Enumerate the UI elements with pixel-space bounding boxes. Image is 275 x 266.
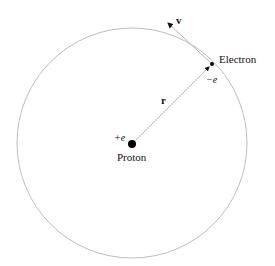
electron-label: Electron [219,53,257,65]
proton-label: Proton [117,151,147,163]
electron-charge-label: −e [206,74,218,85]
electron-dot [210,62,214,66]
proton-charge-label: +e [114,132,126,143]
bohr-model-diagram: v Electron −e r +e Proton [0,0,275,266]
radius-label: r [161,94,166,106]
proton-dot [128,140,136,148]
velocity-vector [168,23,212,64]
velocity-label: v [176,14,182,26]
radius-vector [134,67,209,142]
